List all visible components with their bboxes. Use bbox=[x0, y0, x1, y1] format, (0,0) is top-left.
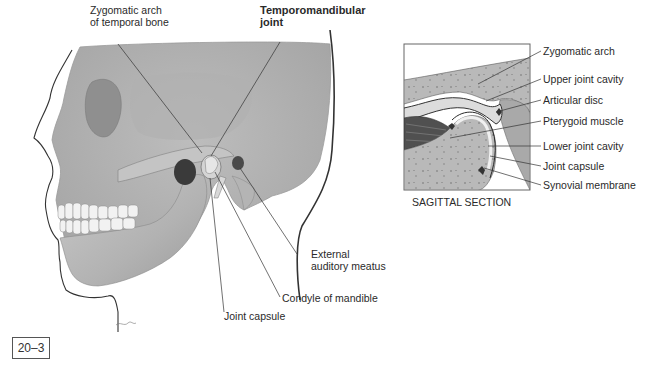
label-zygomatic-arch: Zygomatic arch bbox=[543, 45, 615, 57]
sagittal-section-inset bbox=[404, 44, 541, 190]
coronoid-notch-shadow bbox=[174, 159, 196, 185]
label-zygomatic-arch-temporal: Zygomatic arch of temporal bone bbox=[90, 4, 169, 28]
figure-number: 20–3 bbox=[12, 337, 50, 359]
label-upper-joint-cavity: Upper joint cavity bbox=[543, 73, 624, 85]
label-joint-capsule: Joint capsule bbox=[543, 160, 604, 172]
label-pterygoid-muscle: Pterygoid muscle bbox=[543, 115, 624, 127]
label-joint-capsule-skull: Joint capsule bbox=[224, 310, 285, 322]
label-condyle-of-mandible: Condyle of mandible bbox=[282, 292, 378, 304]
sagittal-section-caption: SAGITTAL SECTION bbox=[412, 196, 511, 208]
skull bbox=[52, 42, 331, 286]
label-external-auditory-meatus: External auditory meatus bbox=[311, 248, 386, 272]
label-temporomandibular-joint: Temporomandibular joint bbox=[260, 4, 366, 28]
label-lower-joint-cavity: Lower joint cavity bbox=[543, 140, 624, 152]
external-auditory-meatus bbox=[232, 156, 244, 170]
artist-signature bbox=[116, 322, 136, 325]
label-articular-disc: Articular disc bbox=[543, 94, 603, 106]
label-synovial-membrane: Synovial membrane bbox=[543, 179, 636, 191]
